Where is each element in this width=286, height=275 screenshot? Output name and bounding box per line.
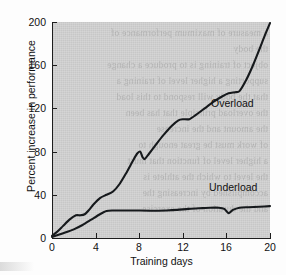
x-tick-label-0: 0 xyxy=(40,241,64,253)
y-tick-120 xyxy=(52,108,57,109)
x-tick-20 xyxy=(270,233,271,238)
scan-edge-smudge xyxy=(0,262,34,271)
x-axis-title: Training days xyxy=(52,255,271,267)
y-tick-80 xyxy=(52,152,57,153)
x-tick-16 xyxy=(226,233,227,238)
y-axis-title: Percent increase in performance xyxy=(25,21,37,211)
series-label-underload: Underload xyxy=(209,181,257,193)
y-tick-0 xyxy=(52,238,57,239)
y-tick-200 xyxy=(52,22,57,23)
x-tick-label-12: 12 xyxy=(171,241,195,253)
series-line-underload xyxy=(52,206,270,237)
x-axis-line xyxy=(52,238,271,239)
y-axis-line xyxy=(52,22,53,239)
x-tick-label-4: 4 xyxy=(84,241,108,253)
figure-scanned-line-chart: a measure of maximum performance of the … xyxy=(0,0,286,275)
x-tick-8 xyxy=(139,233,140,238)
series-label-overload: Overload xyxy=(211,97,254,109)
y-tick-40 xyxy=(52,195,57,196)
plot-area: a measure of maximum performance of the … xyxy=(52,22,270,238)
y-tick-160 xyxy=(52,65,57,66)
x-tick-12 xyxy=(183,233,184,238)
x-tick-label-16: 16 xyxy=(214,241,238,253)
data-curves xyxy=(52,22,270,238)
x-tick-0 xyxy=(52,233,53,238)
x-tick-4 xyxy=(96,233,97,238)
x-tick-label-20: 20 xyxy=(258,241,282,253)
series-line-overload xyxy=(52,23,270,236)
x-tick-label-8: 8 xyxy=(127,241,151,253)
